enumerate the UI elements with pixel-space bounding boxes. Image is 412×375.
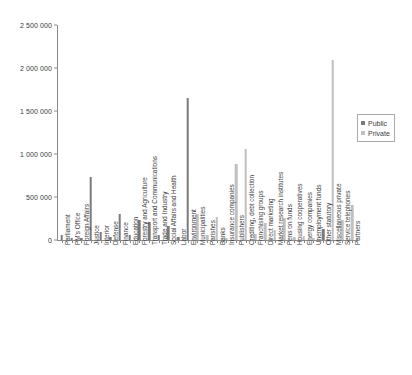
bar-slot[interactable] <box>57 25 67 240</box>
x-axis-label: Insurance companies <box>229 184 235 245</box>
x-axis-label: Defense <box>113 221 119 245</box>
x-axis-label: Service telephones <box>345 191 351 245</box>
x-axis-tick-mark <box>159 240 160 243</box>
x-axis-tick-mark <box>304 240 305 243</box>
x-axis-label: Transport and Communications <box>152 156 158 245</box>
x-axis-tick-mark <box>101 240 102 243</box>
x-axis-label: Pens on funds <box>287 204 293 245</box>
y-axis-tick-label: 2 000 000 <box>20 65 57 72</box>
x-axis-tick-mark <box>217 240 218 243</box>
x-axis-label: Parliament <box>64 214 70 245</box>
x-axis-label: Partners <box>355 221 361 245</box>
legend: Public Private <box>357 114 395 142</box>
bar-slot[interactable] <box>96 25 106 240</box>
x-axis-label: Parishes <box>210 220 216 245</box>
y-axis-tick-label: 1 500 000 <box>20 108 57 115</box>
legend-item-private: Private <box>361 128 390 138</box>
x-axis-label: Crediting, debt collection <box>248 175 254 245</box>
bar-chart-figure: 0500 0001 000 0001 500 0002 000 0002 500… <box>0 0 412 375</box>
x-axis-label: Publishers <box>239 215 245 245</box>
bar-public[interactable] <box>186 98 189 240</box>
x-axis-tick-mark <box>275 240 276 243</box>
x-axis-tick-mark <box>246 240 247 243</box>
y-axis-tick-label: 2 500 000 <box>20 22 57 29</box>
x-axis-label: Housing cooperatives <box>297 184 303 245</box>
x-axis-label: Interior <box>103 225 109 245</box>
x-axis-label: Trade and Industry <box>161 192 167 245</box>
x-axis-tick-mark <box>72 240 73 243</box>
bar-slot[interactable] <box>183 25 193 240</box>
x-axis-label: Social Affairs and Health <box>171 175 177 245</box>
legend-label-private: Private <box>368 130 390 137</box>
x-axis-label: Franchising groups <box>258 191 264 245</box>
x-axis-labels: ParliamentPM's OfficeForeign AffairsJust… <box>57 245 357 373</box>
x-axis-label: Other statutory <box>326 203 332 245</box>
bar-slot[interactable] <box>105 25 115 240</box>
bar-slot[interactable] <box>125 25 135 240</box>
x-axis-label: PM's Office <box>74 213 80 245</box>
bar-slot[interactable] <box>115 25 125 240</box>
legend-item-public: Public <box>361 118 390 128</box>
x-axis-label: Energy companies <box>306 192 312 245</box>
x-axis-tick-mark <box>188 240 189 243</box>
x-axis-label: Finance <box>122 222 128 245</box>
x-axis-label: Labor <box>181 229 187 245</box>
x-axis-label: Market research institutes <box>277 172 283 245</box>
x-axis-label: Foreign Affairs <box>84 204 90 245</box>
legend-swatch-private-icon <box>361 131 365 135</box>
legend-label-public: Public <box>368 120 387 127</box>
bar-slot[interactable] <box>212 25 222 240</box>
x-axis-tick-mark <box>130 240 131 243</box>
y-axis-tick-label: 500 000 <box>26 194 57 201</box>
y-axis-tick-label: 1 000 000 <box>20 151 57 158</box>
x-axis-label: Forestry and Agriculture <box>142 177 148 245</box>
x-axis-label: Justice <box>93 225 99 245</box>
x-axis-label: Direct marketing <box>268 198 274 245</box>
y-axis-tick-label: 0 <box>48 237 57 244</box>
x-axis-label: Environment <box>190 209 196 245</box>
bar-slot[interactable] <box>67 25 77 240</box>
x-axis-label: Unemployment funds <box>316 185 322 245</box>
legend-swatch-public-icon <box>361 121 365 125</box>
x-axis-label: Banks <box>219 227 225 245</box>
x-axis-label: Miscellaneous private <box>335 184 341 245</box>
x-axis-label: Education <box>132 217 138 245</box>
x-axis-label: Municipalities <box>200 207 206 245</box>
